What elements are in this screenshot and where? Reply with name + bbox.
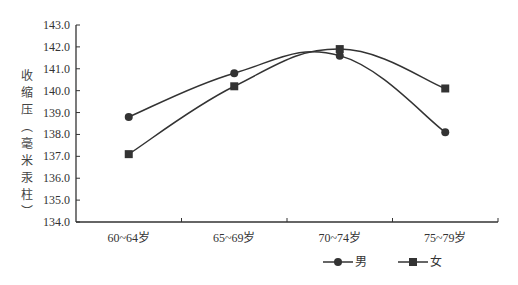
square-marker: [441, 84, 449, 92]
y-tick-label: 134.0: [43, 215, 70, 229]
y-tick-label: 143.0: [43, 18, 70, 32]
y-tick-label: 137.0: [43, 149, 70, 163]
y-tick-label: 140.0: [43, 84, 70, 98]
square-marker: [336, 45, 344, 53]
y-tick-label: 138.0: [43, 127, 70, 141]
x-tick-label: 70~74岁: [319, 230, 362, 245]
line-chart: 134.0135.0136.0137.0138.0139.0140.0141.0…: [0, 0, 518, 285]
y-tick-label: 139.0: [43, 106, 70, 120]
circle-marker: [334, 258, 342, 266]
legend-item-male: 男: [323, 255, 367, 269]
legend-label: 男: [355, 255, 367, 269]
legend-item-female: 女: [398, 254, 442, 269]
square-marker: [230, 82, 238, 90]
circle-marker: [125, 113, 133, 121]
x-tick-label: 60~64岁: [108, 230, 151, 245]
circle-marker: [441, 128, 449, 136]
legend-label: 女: [430, 254, 442, 269]
y-tick-label: 135.0: [43, 193, 70, 207]
y-tick-label: 136.0: [43, 171, 70, 185]
circle-marker: [230, 69, 238, 77]
square-marker: [409, 258, 417, 266]
y-tick-label: 142.0: [43, 40, 70, 54]
y-tick-label: 141.0: [43, 62, 70, 76]
y-axis-label: 收缩压︵毫米汞柱︶: [20, 68, 34, 221]
series-female: [125, 45, 450, 158]
square-marker: [125, 150, 133, 158]
x-tick-label: 65~69岁: [213, 230, 256, 245]
x-tick-label: 75~79岁: [424, 230, 467, 245]
